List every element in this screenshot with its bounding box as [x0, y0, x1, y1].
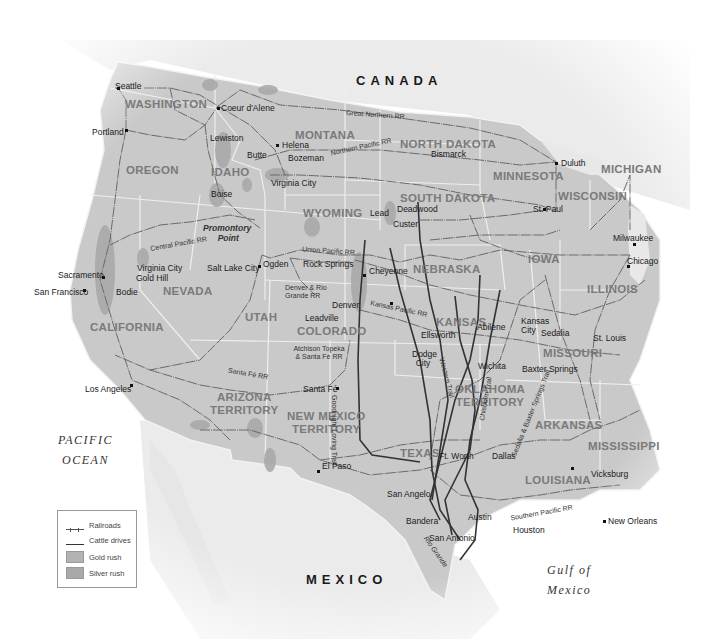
state-arkansas: ARKANSAS — [535, 419, 603, 432]
state-california: CALIFORNIA — [90, 321, 164, 334]
city-sedalia: Sedalia — [541, 328, 569, 338]
state-colorado: COLORADO — [297, 325, 366, 338]
city-san-angelo: San Angelo — [387, 489, 430, 499]
city-butte: Butte — [247, 150, 267, 160]
city-los-angeles: Los Angeles — [85, 384, 131, 394]
city-sacramento: Sacramento — [58, 270, 104, 280]
label-gulf-line2: Mexico — [547, 580, 591, 600]
city-wichita: Wichita — [478, 361, 506, 371]
map-legend: Railroads Cattle drives Gold rush Silver… — [57, 510, 137, 588]
rr-atchison-topeka: Atchison Topeka & Santa Fé RR — [293, 345, 345, 361]
state-michigan: MICHIGAN — [601, 163, 662, 176]
legend-item-gold-rush: Gold rush — [66, 551, 122, 563]
state-missouri: MISSOURI — [543, 347, 602, 360]
city-bandera: Bandera — [406, 516, 438, 526]
city-virginia-city-mt: Virginia City — [271, 178, 316, 188]
legend-label: Silver rush — [89, 569, 124, 578]
city-abilene: Abilene — [477, 322, 505, 332]
label-pacific-ocean: PACIFIC OCEAN — [58, 430, 113, 470]
city-marker — [633, 243, 636, 246]
city-salt-lake-city: Salt Lake City — [207, 263, 259, 273]
city-santa-fe: Santa Fé — [303, 384, 338, 394]
city-deadwood: Deadwood — [397, 204, 438, 214]
city-portland: Portland — [92, 127, 124, 137]
city-lead: Lead — [370, 208, 389, 218]
state-wisconsin: WISCONSIN — [558, 190, 627, 203]
city-seattle: Seattle — [115, 81, 141, 91]
label-pacific-line1: PACIFIC — [58, 430, 113, 450]
state-idaho: IDAHO — [211, 166, 250, 179]
city-lewiston: Lewiston — [210, 133, 244, 143]
city-chicago: Chicago — [627, 256, 658, 266]
state-nevada: NEVADA — [163, 285, 213, 298]
city-boise: Boise — [211, 189, 232, 199]
city-new-orleans: New Orleans — [608, 516, 657, 526]
state-minnesota: MINNESOTA — [493, 170, 564, 183]
silver-swatch-icon — [66, 567, 84, 579]
city-gold-hill: Gold Hill — [136, 273, 168, 283]
label-pacific-line2: OCEAN — [58, 450, 113, 470]
railroad-symbol-icon — [66, 529, 84, 530]
city-cheyenne: Cheyenne — [369, 266, 408, 276]
city-marker — [276, 144, 279, 147]
city-coeur-dalene: Coeur d'Alene — [221, 103, 275, 113]
city-st-louis: St. Louis — [593, 333, 626, 343]
city-marker — [363, 274, 366, 277]
city-bodie: Bodie — [116, 287, 138, 297]
label-canada: CANADA — [356, 73, 442, 88]
label-mexico: MEXICO — [306, 572, 387, 587]
legend-item-railroads: Railroads — [66, 521, 121, 530]
legend-item-silver-rush: Silver rush — [66, 567, 124, 579]
city-marker — [217, 107, 220, 110]
city-denver: Denver — [332, 300, 359, 310]
label-gulf-line1: Gulf of — [547, 560, 591, 580]
state-iowa: IOWA — [528, 253, 560, 266]
state-oregon: OREGON — [126, 164, 179, 177]
state-wyoming: WYOMING — [303, 207, 363, 220]
city-houston: Houston — [513, 525, 545, 535]
city-vicksburg: Vicksburg — [591, 469, 628, 479]
cattle-line-icon — [66, 544, 84, 545]
city-marker — [571, 467, 574, 470]
legend-label: Railroads — [89, 521, 121, 530]
gold-swatch-icon — [66, 551, 84, 563]
legend-label: Gold rush — [89, 553, 122, 562]
city-austin: Austin — [468, 512, 492, 522]
legend-label: Cattle drives — [89, 536, 131, 545]
city-bozeman: Bozeman — [288, 153, 324, 163]
state-new-mexico: NEW MEXICO TERRITORY — [287, 410, 365, 436]
state-arizona: ARIZONA TERRITORY — [210, 391, 279, 417]
city-virginia-city-nv: Virginia City — [137, 263, 182, 273]
city-ogden: Ogden — [263, 259, 289, 269]
city-rock-springs: Rock Springs — [303, 259, 354, 269]
city-marker — [555, 162, 558, 165]
state-washington: WASHINGTON — [125, 98, 207, 111]
city-ellsworth: Ellsworth — [421, 330, 455, 340]
city-helena: Helena — [282, 140, 309, 150]
city-leadville: Leadville — [305, 313, 339, 323]
city-ft-worth: Ft. Worth — [439, 451, 474, 461]
label-gulf-of-mexico: Gulf of Mexico — [547, 560, 591, 600]
city-marker — [603, 520, 606, 523]
city-promontory-point: Promontory Point — [203, 223, 251, 243]
state-texas: TEXAS — [400, 447, 440, 460]
state-mississippi: MISSISSIPPI — [588, 440, 660, 453]
state-louisiana: LOUISIANA — [525, 474, 591, 487]
city-san-antonio: San Antonio — [429, 533, 475, 543]
state-utah: UTAH — [245, 311, 277, 324]
rr-denver-rio-grande: Denver & Rio Grande RR — [285, 284, 335, 300]
state-nebraska: NEBRASKA — [413, 263, 481, 276]
city-duluth: Duluth — [561, 158, 586, 168]
legend-item-cattle-drives: Cattle drives — [66, 536, 131, 545]
city-san-francisco: San Francisco — [34, 287, 88, 297]
trail-goodnight-loving: Goodnight Loving Trail — [331, 395, 338, 465]
city-bismarck: Bismarck — [431, 149, 466, 159]
city-marker — [317, 470, 320, 473]
city-dodge-city: Dodge City — [412, 350, 434, 368]
state-illinois: ILLINOIS — [587, 283, 638, 296]
city-marker — [125, 129, 128, 132]
city-milwaukee: Milwaukee — [613, 233, 653, 243]
city-custer: Custer — [393, 219, 418, 229]
city-st-paul: St. Paul — [533, 204, 563, 214]
